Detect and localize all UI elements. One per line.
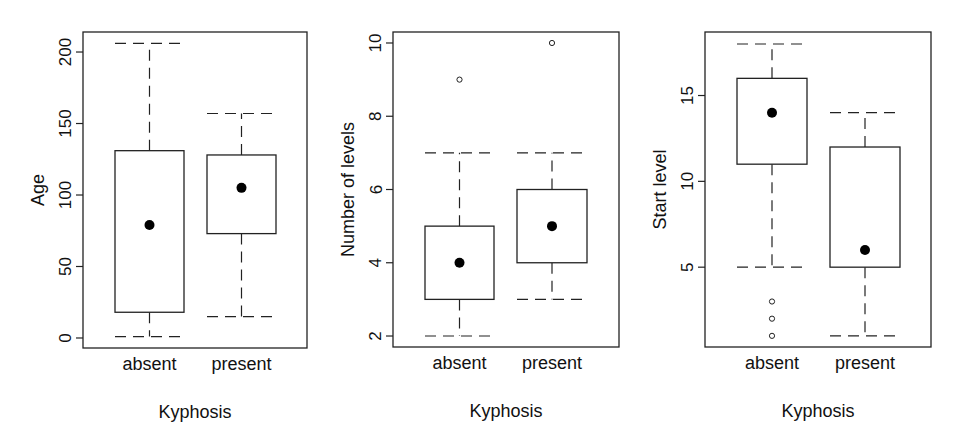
y-tick-label: 50 (57, 257, 76, 276)
y-tick-label: 150 (57, 109, 76, 137)
box-present (830, 113, 900, 336)
median-point (860, 245, 870, 255)
iqr-box (737, 78, 807, 164)
y-tick-label: 10 (367, 34, 386, 53)
y-axis-label: Number of levels (338, 122, 358, 257)
y-tick-label: 4 (367, 258, 386, 267)
box-absent (115, 43, 184, 336)
median-point (145, 220, 155, 230)
x-category-label: absent (122, 354, 176, 374)
iqr-box (115, 151, 184, 313)
x-axis-label: Kyphosis (469, 401, 542, 421)
y-axis: 51015 (679, 86, 706, 272)
x-axis-label: Kyphosis (781, 401, 854, 421)
kyphosis-boxplot-figure: 050100150200AgeabsentpresentKyphosis2468… (0, 0, 965, 448)
box-absent (737, 44, 807, 338)
x-category-label: present (835, 353, 895, 373)
x-category-label: present (522, 353, 582, 373)
x-category-label: absent (745, 353, 799, 373)
x-category-label: present (211, 354, 271, 374)
median-point (547, 221, 557, 231)
y-tick-label: 0 (57, 333, 76, 342)
boxplot-panel-3: 51015Start levelabsentpresentKyphosis (650, 32, 931, 421)
y-tick-label: 6 (367, 185, 386, 194)
x-axis-label: Kyphosis (158, 402, 231, 422)
y-axis-label: Start level (650, 149, 670, 229)
y-tick-label: 10 (679, 172, 698, 191)
boxplot-panel-2: 246810Number of levelsabsentpresentKypho… (338, 32, 619, 421)
y-axis-label: Age (28, 174, 48, 206)
outlier-point (457, 77, 462, 82)
x-category-label: absent (432, 353, 486, 373)
boxplot-panel-1: 050100150200AgeabsentpresentKyphosis (28, 32, 307, 422)
y-tick-label: 15 (679, 86, 698, 105)
y-tick-label: 200 (57, 38, 76, 66)
iqr-box (207, 155, 276, 234)
outlier-point (549, 40, 554, 45)
median-point (767, 108, 777, 118)
outlier-point (769, 316, 774, 321)
y-axis: 050100150200 (57, 38, 84, 343)
outlier-point (769, 333, 774, 338)
outlier-point (769, 299, 774, 304)
box-present (207, 114, 276, 317)
y-axis: 246810 (367, 34, 394, 341)
y-tick-label: 2 (367, 331, 386, 340)
y-tick-label: 100 (57, 181, 76, 209)
box-absent (425, 77, 494, 336)
box-present (517, 40, 587, 299)
y-tick-label: 8 (367, 112, 386, 121)
y-tick-label: 5 (679, 262, 698, 271)
median-point (455, 258, 465, 268)
chart-canvas: 050100150200AgeabsentpresentKyphosis2468… (0, 0, 965, 448)
median-point (237, 183, 247, 193)
